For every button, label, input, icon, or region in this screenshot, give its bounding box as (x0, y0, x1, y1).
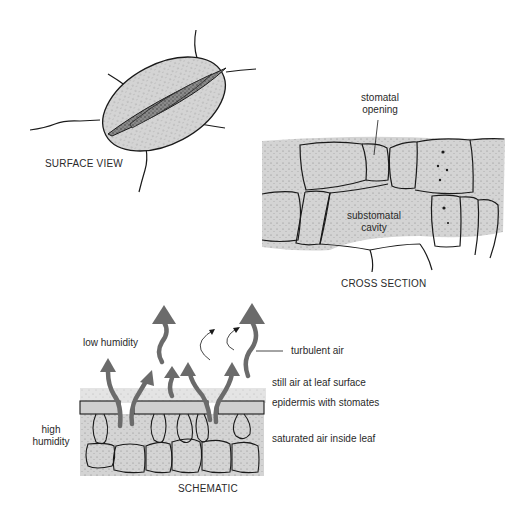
low-humidity-label: low humidity (83, 337, 138, 349)
high-humidity-label-line1: high (26, 424, 76, 436)
surface-view-caption: SURFACE VIEW (45, 158, 123, 169)
schematic-caption: SCHEMATIC (178, 483, 238, 494)
substomatal-cavity-label: substomatal cavity (342, 210, 406, 233)
cross-section-tissue (262, 120, 505, 272)
cross-section-caption: CROSS SECTION (341, 278, 426, 289)
substomatal-cavity-label-line2: cavity (342, 222, 406, 234)
turbulent-air-label: turbulent air (291, 345, 344, 357)
stomatal-opening-label: stomatal opening (356, 92, 404, 115)
high-humidity-label: high humidity (26, 424, 76, 447)
stomatal-opening-label-line1: stomatal (356, 92, 404, 104)
stomatal-opening-label-line2: opening (356, 104, 404, 116)
substomatal-cavity-label-line1: substomatal (342, 210, 406, 222)
schematic-leaf (80, 303, 283, 476)
saturated-air-label: saturated air inside leaf (272, 433, 375, 445)
epidermis-label: epidermis with stomates (272, 397, 379, 409)
diagram-artwork (0, 0, 531, 512)
still-air-label: still air at leaf surface (272, 377, 366, 389)
high-humidity-label-line2: humidity (26, 436, 76, 448)
